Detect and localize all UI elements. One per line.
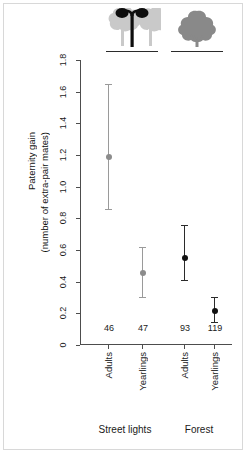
y-tick-label: 1.8 — [58, 54, 68, 67]
error-bar-cap — [181, 225, 188, 226]
x-group-label: Forest — [185, 424, 213, 435]
sample-size-label: 93 — [180, 323, 190, 333]
y-tick — [76, 123, 80, 124]
y-axis-title-line1: Paternity gain — [26, 132, 37, 190]
y-tick — [76, 345, 80, 346]
y-tick — [76, 313, 80, 314]
y-tick-label: 1.6 — [58, 85, 68, 98]
x-group-label: Street lights — [99, 424, 152, 435]
y-tick — [76, 187, 80, 188]
data-point[interactable] — [212, 308, 218, 314]
y-axis-title-line2: (number of extra-pair mates) — [39, 132, 50, 252]
y-tick-label: 1.2 — [58, 149, 68, 162]
ground-line — [171, 51, 223, 52]
error-bar-cap — [139, 297, 146, 298]
ground-line — [106, 51, 158, 52]
x-axis-line — [80, 344, 232, 345]
x-tick — [108, 345, 109, 349]
y-tick-label: 0.6 — [58, 244, 68, 257]
y-tick-label: 0.2 — [58, 307, 68, 320]
error-bar — [184, 225, 185, 280]
tree-svg — [168, 8, 226, 54]
x-tick — [184, 345, 185, 349]
y-tick — [76, 92, 80, 93]
error-bar-cap — [211, 297, 218, 298]
y-tick — [76, 250, 80, 251]
y-tick — [76, 155, 80, 156]
sample-size-label: 119 — [208, 323, 222, 333]
tree-icon — [168, 8, 226, 54]
y-tick — [76, 218, 80, 219]
plot-area: 00.20.40.60.81.01.21.41.61.8 464793119 — [80, 60, 232, 345]
y-tick-label: 0.8 — [58, 212, 68, 225]
error-bar-cap — [105, 84, 112, 85]
y-axis-line — [80, 60, 81, 345]
y-tick — [76, 282, 80, 283]
y-tick-label: 1.4 — [58, 117, 68, 130]
figure-root: Paternity gain (number of extra-pair mat… — [0, 0, 249, 455]
y-tick-label: 0.4 — [58, 275, 68, 288]
x-category-label: Yearlings — [209, 352, 220, 391]
error-bar-cap — [139, 247, 146, 248]
data-point[interactable] — [106, 154, 112, 160]
x-category-label: Adults — [103, 352, 114, 378]
x-tick — [214, 345, 215, 349]
x-category-label: Yearlings — [137, 352, 148, 391]
y-tick-label: 0 — [58, 342, 68, 347]
error-bar-cap — [105, 209, 112, 210]
streetlight-tree-svg — [103, 8, 161, 54]
sample-size-label: 47 — [138, 323, 148, 333]
error-bar — [108, 84, 109, 209]
data-point[interactable] — [182, 255, 188, 261]
error-bar-cap — [181, 280, 188, 281]
x-category-label: Adults — [179, 352, 190, 378]
sample-size-label: 46 — [104, 323, 114, 333]
streetlight-tree-icon — [103, 8, 161, 54]
y-tick-label: 1.0 — [58, 180, 68, 193]
x-tick — [142, 345, 143, 349]
data-point[interactable] — [140, 270, 146, 276]
y-tick — [76, 60, 80, 61]
